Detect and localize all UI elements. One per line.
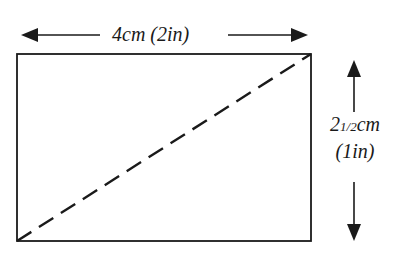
dashed-diagonal [17, 54, 311, 241]
arrow-left-icon [21, 28, 38, 42]
height-fraction: 1/2 [340, 119, 357, 134]
height-inch-line: (1in) [318, 139, 392, 163]
height-unit: cm [357, 113, 380, 135]
height-whole: 2 [330, 113, 340, 135]
height-cm-line: 21/2cm [318, 112, 392, 139]
arrow-down-icon [347, 224, 361, 241]
height-dimension-label: 21/2cm (1in) [318, 112, 392, 163]
width-dimension-label: 4cm (2in) [112, 22, 189, 46]
arrow-right-icon [291, 28, 308, 42]
